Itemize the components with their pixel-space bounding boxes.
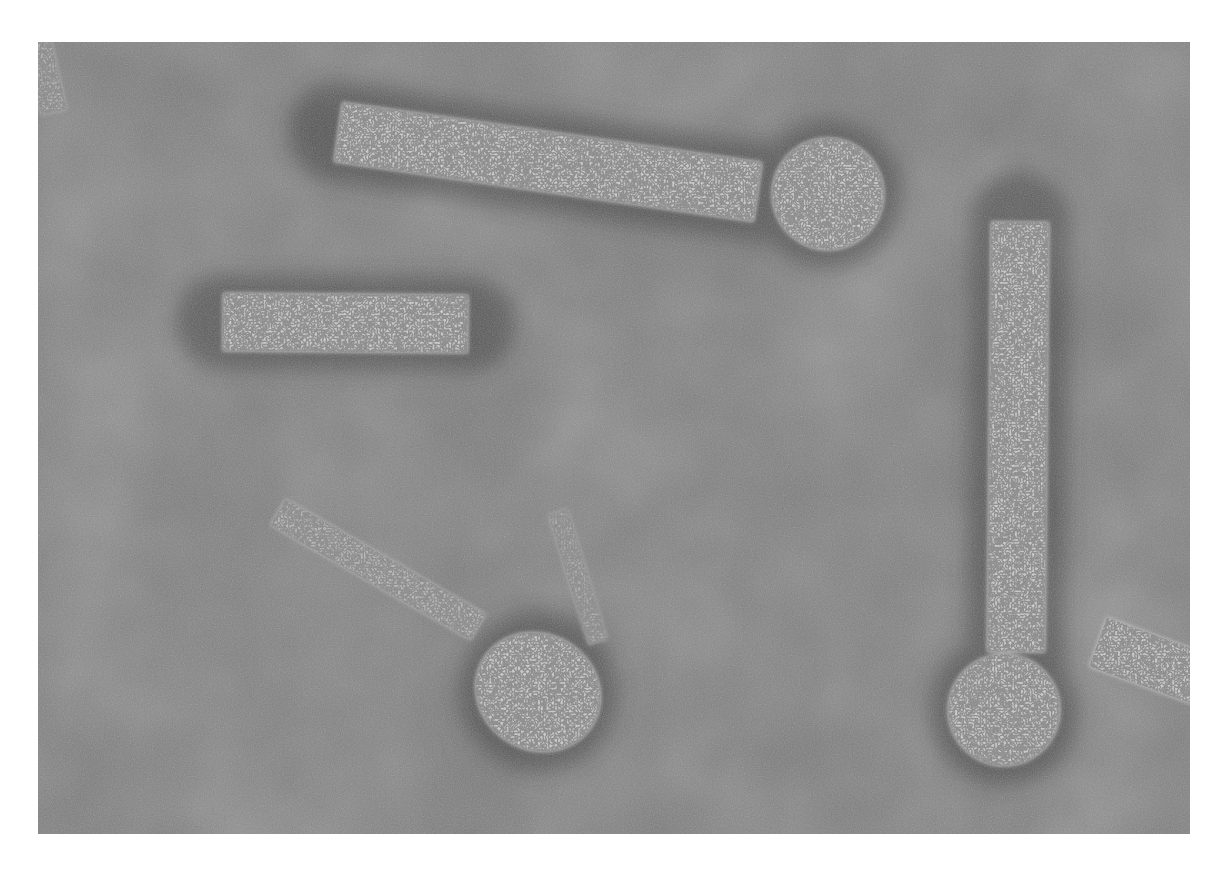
virus-micrograph (38, 42, 1190, 834)
figure-caption (80, 876, 1180, 888)
micrograph-image (38, 42, 1190, 834)
